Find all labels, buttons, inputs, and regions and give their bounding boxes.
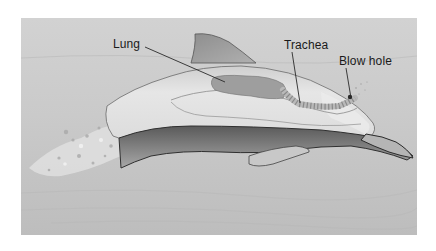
label-lung: Lung — [113, 38, 140, 51]
label-trachea: Trachea — [284, 39, 328, 52]
dolphin-illustration — [21, 18, 417, 235]
label-blow-hole: Blow hole — [339, 55, 392, 68]
diagram-frame: Lung Trachea Blow hole — [21, 18, 417, 235]
